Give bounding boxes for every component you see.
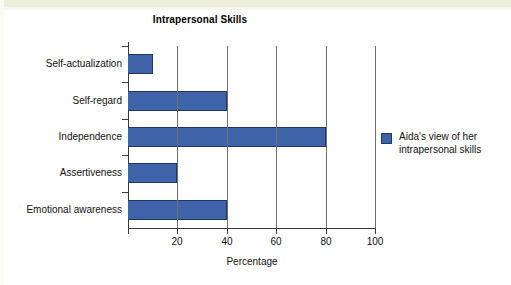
category-label: Emotional awareness [0,204,122,215]
y-tick [122,46,128,47]
chart-page: Intrapersonal Skills 20406080100 Self-ac… [0,0,511,285]
gridline-100 [375,46,376,228]
x-tick-0 [128,229,129,234]
legend-label: Aida's view of her intrapersonal skills [399,131,503,156]
legend-label-line-2: intrapersonal skills [399,144,503,157]
x-tick-20 [177,229,178,234]
bar [128,54,153,74]
gridline-20 [177,46,178,228]
y-tick [122,119,128,120]
scan-artifact-left-edge [0,0,4,285]
plot-area [128,46,375,228]
category-label: Self-regard [0,95,122,106]
x-tick-100 [375,229,376,234]
category-label: Self-actualization [0,58,122,69]
x-tick-label-100: 100 [355,236,395,247]
category-label: Independence [0,131,122,142]
y-tick [122,82,128,83]
legend-swatch-icon [381,133,392,144]
x-tick-60 [276,229,277,234]
scan-artifact-band-secondary [0,7,511,10]
chart-title: Intrapersonal Skills [0,14,400,25]
x-tick-label-80: 80 [306,236,346,247]
category-label: Assertiveness [0,167,122,178]
x-tick-40 [227,229,228,234]
x-tick-80 [326,229,327,234]
scan-artifact-band [0,0,511,7]
bar [128,163,177,183]
y-tick [122,192,128,193]
x-axis-line [128,228,376,229]
y-tick [122,155,128,156]
x-tick-label-40: 40 [207,236,247,247]
x-tick-label-20: 20 [157,236,197,247]
x-tick-label-60: 60 [256,236,296,247]
gridline-40 [227,46,228,228]
legend-label-line-1: Aida's view of her [399,131,503,144]
gridline-60 [276,46,277,228]
legend: Aida's view of her intrapersonal skills [381,131,503,156]
gridline-80 [326,46,327,228]
x-axis-title: Percentage [128,256,376,267]
